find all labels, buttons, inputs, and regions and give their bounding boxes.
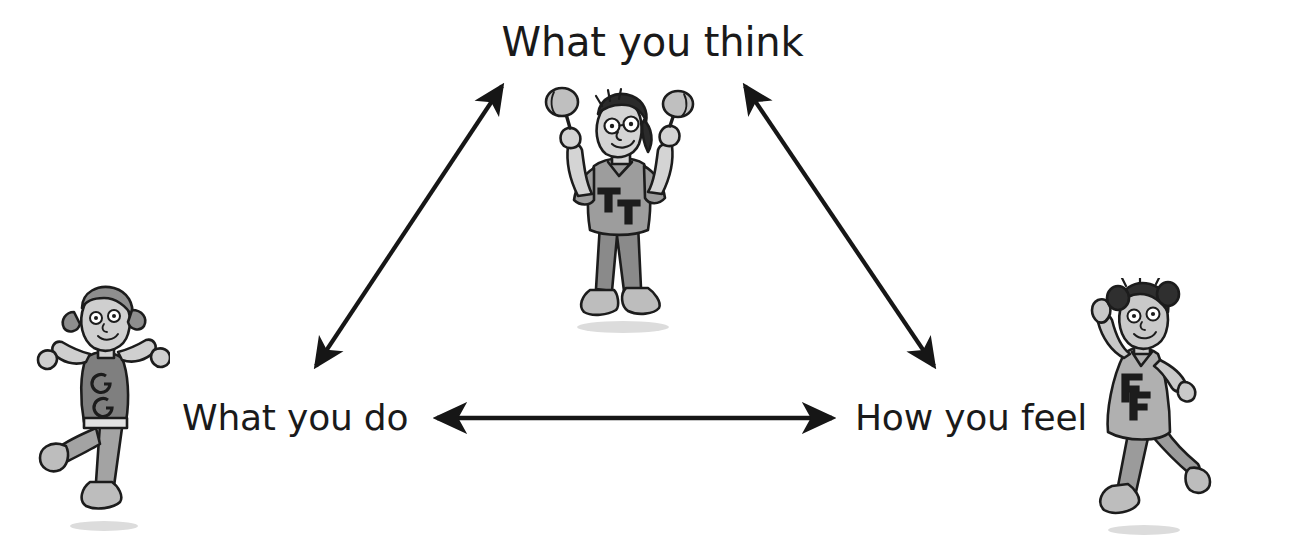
node-label-think: What you think xyxy=(0,18,1305,66)
arrow-do-think xyxy=(316,86,502,366)
diagram-canvas: What you think What you do How you feel xyxy=(0,0,1305,553)
illustration-feel-character xyxy=(1068,278,1218,540)
illustration-think-character xyxy=(520,84,720,336)
node-label-do: What you do xyxy=(182,396,408,440)
illustration-do-character xyxy=(28,282,170,534)
node-label-feel: How you feel xyxy=(855,396,1087,440)
arrow-think-feel xyxy=(745,86,934,366)
